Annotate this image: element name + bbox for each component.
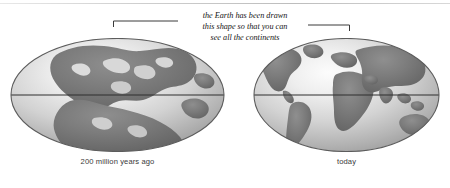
leader-line-right bbox=[308, 25, 350, 31]
annotation-leader-lines bbox=[0, 0, 450, 188]
earth-continents-figure: 200 million years ago bbox=[0, 0, 450, 188]
leader-line-left bbox=[114, 21, 179, 27]
